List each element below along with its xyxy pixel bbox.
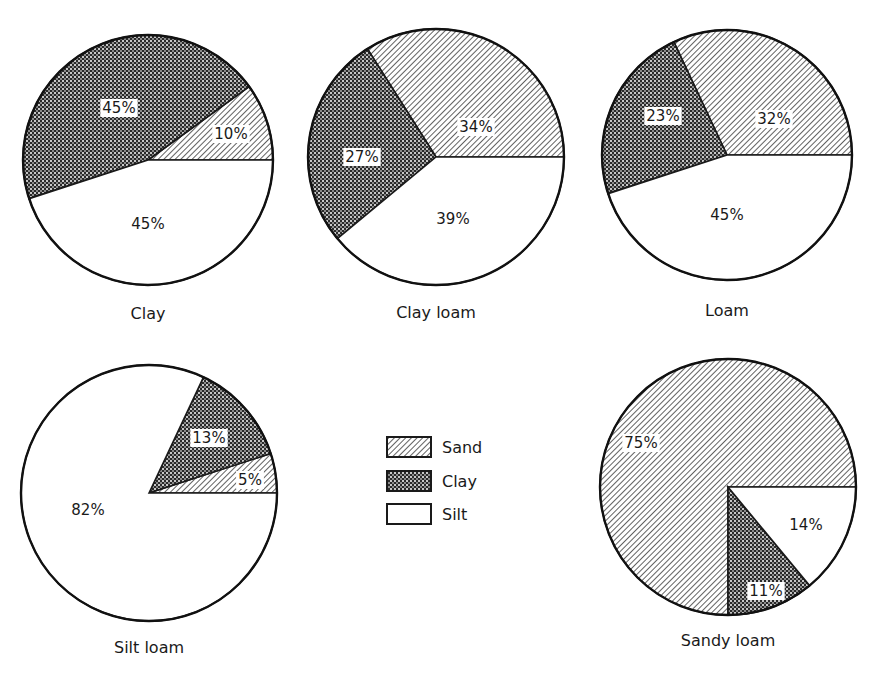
soil-texture-pie-charts: 10%45%45%34%27%39%32%23%45%5%13%82%75%11… (0, 0, 873, 676)
legend-swatch-sand (387, 437, 431, 457)
pct-label-silt: 45% (131, 215, 164, 233)
pie-title-silt-loam: Silt loam (114, 638, 184, 657)
pct-label-clay: 27% (345, 148, 378, 166)
legend-label-silt: Silt (442, 505, 467, 524)
pie-title-clay-loam: Clay loam (396, 303, 476, 322)
pct-label-sand: 5% (238, 471, 262, 489)
pie-sandy-loam: 75%11%14% (600, 359, 856, 615)
pct-label-clay: 23% (646, 107, 679, 125)
legend: Sand Clay Silt (387, 437, 482, 524)
pie-clay: 10%45%45% (23, 35, 273, 285)
pie-title-sandy-loam: Sandy loam (681, 631, 775, 650)
pct-label-silt: 82% (71, 501, 104, 519)
pct-label-silt: 45% (710, 206, 743, 224)
legend-swatch-clay (387, 471, 431, 491)
pct-label-clay: 11% (749, 582, 782, 600)
pie-silt-loam: 5%13%82% (21, 365, 277, 621)
pct-label-clay: 13% (192, 429, 225, 447)
pie-clay-loam: 34%27%39% (308, 29, 564, 285)
pie-loam: 32%23%45% (602, 30, 852, 280)
pct-label-sand: 34% (459, 118, 492, 136)
pie-title-clay: Clay (131, 304, 166, 323)
legend-label-sand: Sand (442, 438, 482, 457)
pct-label-clay: 45% (102, 99, 135, 117)
pct-label-sand: 75% (624, 434, 657, 452)
legend-label-clay: Clay (442, 472, 477, 491)
pie-title-loam: Loam (705, 301, 749, 320)
pct-label-silt: 39% (436, 210, 469, 228)
pct-label-sand: 32% (757, 110, 790, 128)
legend-swatch-silt (387, 504, 431, 524)
pct-label-silt: 14% (789, 516, 822, 534)
pct-label-sand: 10% (214, 125, 247, 143)
